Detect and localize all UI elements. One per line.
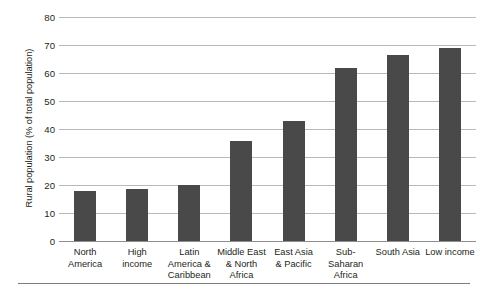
x-category-label: Sub-SaharanAfrica [320,247,372,282]
bar[interactable] [387,55,409,241]
x-category-label: Low income [424,247,476,259]
bar-slot [163,17,215,241]
x-category-label: NorthAmerica [59,247,111,270]
bar-slot [372,17,424,241]
x-category-label: LatinAmerica &Caribbean [163,247,215,282]
bar[interactable] [126,189,148,241]
y-tick-label-10: 10 [44,208,55,219]
bar-slot [424,17,476,241]
bar[interactable] [230,141,252,241]
bar-slot [215,17,267,241]
y-tick-label-60: 60 [44,68,55,79]
y-axis-tick-labels: 80706050403020100 [31,17,55,241]
x-category-label: High income [111,247,163,270]
bar-slot [111,17,163,241]
bars-group [59,17,476,241]
bar[interactable] [74,191,96,241]
bar-slot [268,17,320,241]
x-category-label: Middle East& NorthAfrica [215,247,267,282]
y-tick-label-50: 50 [44,96,55,107]
bar[interactable] [439,48,461,241]
y-tick-label-30: 30 [44,152,55,163]
bottom-divider [18,283,470,284]
rural-population-bar-chart: Rural population (% of total population)… [0,0,488,301]
y-tick-label-0: 0 [50,236,55,247]
bar-slot [59,17,111,241]
y-tick-label-40: 40 [44,124,55,135]
bar[interactable] [283,121,305,241]
x-category-label: East Asia& Pacific [268,247,320,270]
y-tick-label-80: 80 [44,12,55,23]
y-tick-label-70: 70 [44,40,55,51]
bar[interactable] [178,185,200,241]
gridline-0 [59,241,476,242]
bar-slot [320,17,372,241]
y-tick-label-20: 20 [44,180,55,191]
x-axis-category-labels: NorthAmericaHigh incomeLatinAmerica &Car… [59,247,476,282]
x-category-label: South Asia [372,247,424,259]
plot-area [59,17,476,241]
bar[interactable] [335,68,357,241]
